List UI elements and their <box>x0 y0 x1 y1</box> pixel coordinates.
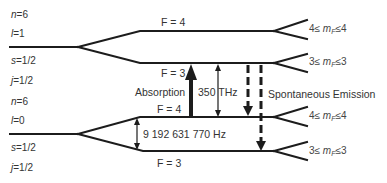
upper-s-label: s=1/2 <box>11 55 36 67</box>
spontaneous-emission-arrows <box>248 65 261 143</box>
upper-F4-level <box>78 31 274 47</box>
lower-j-label: j=1/2 <box>11 162 33 174</box>
lower-F3-zeeman-fan <box>274 142 307 160</box>
lower-F4-mF-label: 4≤ mF≤4 <box>309 110 347 125</box>
upper-j-label: j=1/2 <box>11 75 33 87</box>
lower-F3-label: F = 3 <box>157 157 181 169</box>
hyperfine-frequency-arrow <box>134 118 140 150</box>
lower-F4-zeeman-fan <box>274 107 307 126</box>
lower-F4-label: F = 4 <box>157 103 181 115</box>
lower-n-label: n=6 <box>11 96 28 108</box>
upper-F4-zeeman-fan <box>274 20 307 39</box>
upper-F3-label: F = 3 <box>161 67 185 79</box>
upper-F3-level <box>78 47 274 63</box>
upper-F3-zeeman-fan <box>274 54 307 72</box>
lower-s-label: s=1/2 <box>11 142 36 154</box>
upper-l-label: l=1 <box>11 28 25 40</box>
spontaneous-emission-label: Spontaneous Emission <box>268 88 375 100</box>
upper-F3-mF-label: 3≤ mF≤3 <box>309 56 347 71</box>
absorption-label: Absorption <box>135 86 185 98</box>
energy-level-diagram: n=6 l=1 s=1/2 j=1/2 n=6 l=0 s=1/2 j=1/2 … <box>0 0 387 183</box>
optical-frequency-label: 350 THz <box>198 86 238 98</box>
lower-l-label: l=0 <box>11 115 25 127</box>
lower-F3-mF-label: 3≤ mF≤3 <box>309 145 347 160</box>
upper-F4-mF-label: 4≤ mF≤4 <box>309 23 347 38</box>
hyperfine-frequency-label: 9 192 631 770 Hz <box>143 128 226 140</box>
absorption-arrow <box>185 64 197 117</box>
upper-n-label: n=6 <box>11 9 28 21</box>
upper-F4-label: F = 4 <box>161 16 185 28</box>
